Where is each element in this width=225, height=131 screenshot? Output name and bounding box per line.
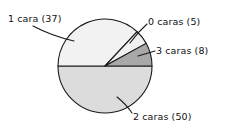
pie-label-3-caras: 3 caras (8) [156,46,208,56]
pie-slice-2-caras[interactable] [58,66,152,113]
pie-label-0-caras: 0 caras (5) [148,17,200,27]
pie-label-2-caras: 2 caras (50) [133,112,192,122]
pie-label-1-cara: 1 cara (37) [8,14,61,24]
pie-chart-figure: 1 cara (37) 0 caras (5) 3 caras (8) 2 ca… [0,0,225,131]
